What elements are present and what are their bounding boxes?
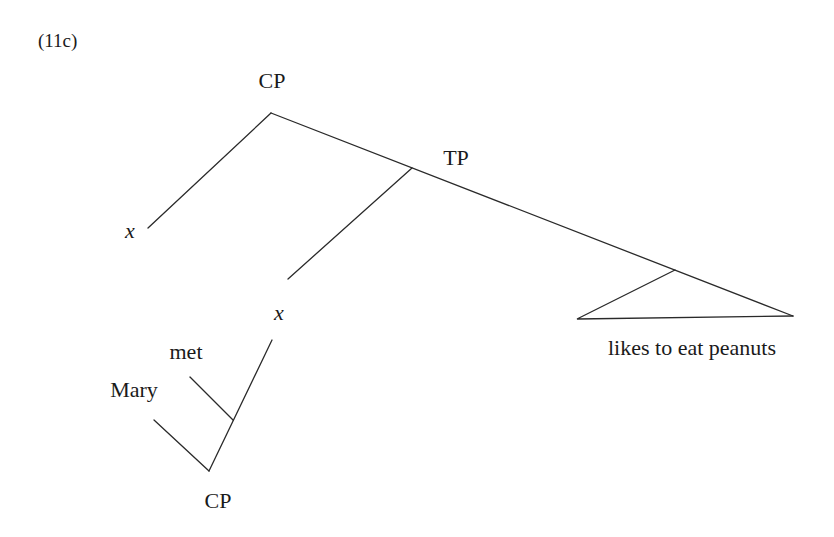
subject-x-label: x [273,300,284,325]
syntax-tree-diagram: (11c) CP x TP likes to eat peanuts x met… [0,0,834,537]
edge-cp-to-tp-predicate [271,113,793,316]
root-cp-label: CP [259,68,286,93]
tp-label: TP [443,145,469,170]
met-label: met [170,339,203,364]
edge-tp-to-subject-x [288,168,412,279]
example-label: (11c) [38,30,77,52]
spec-x-label: x [124,218,135,243]
edge-met [190,377,233,420]
predicate-label: likes to eat peanuts [608,335,776,360]
bottom-cp-label: CP [205,488,232,513]
mary-label: Mary [110,377,158,402]
predicate-triangle [577,270,793,319]
edge-mary [154,420,209,471]
edge-cp-to-x [148,113,271,228]
